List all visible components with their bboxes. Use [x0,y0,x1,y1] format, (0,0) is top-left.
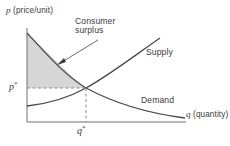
equilibrium-price-star: * [14,80,18,88]
equilibrium-quantity-label: q* [77,126,86,137]
supply-curve-label: Supply [146,48,173,57]
consumer-surplus-leader-line [62,40,98,62]
consumer-surplus-annotation-line2: surplus [75,26,115,35]
demand-curve-label: Demand [141,96,174,105]
y-axis-label: p (price/unit) [6,6,53,16]
equilibrium-price-label: p* [9,82,18,93]
y-axis-units: (price/unit) [11,6,53,15]
x-axis-units: (quantity) [191,110,229,119]
consumer-surplus-annotation: Consumer surplus [75,17,115,36]
consumer-surplus-region [27,33,86,88]
consumer-surplus-arrowhead [57,58,66,65]
equilibrium-quantity-star: * [82,124,86,132]
x-axis-label: q (quantity) [186,110,228,120]
consumer-surplus-chart: p (price/unit) q (quantity) Consumer sur… [0,0,230,146]
